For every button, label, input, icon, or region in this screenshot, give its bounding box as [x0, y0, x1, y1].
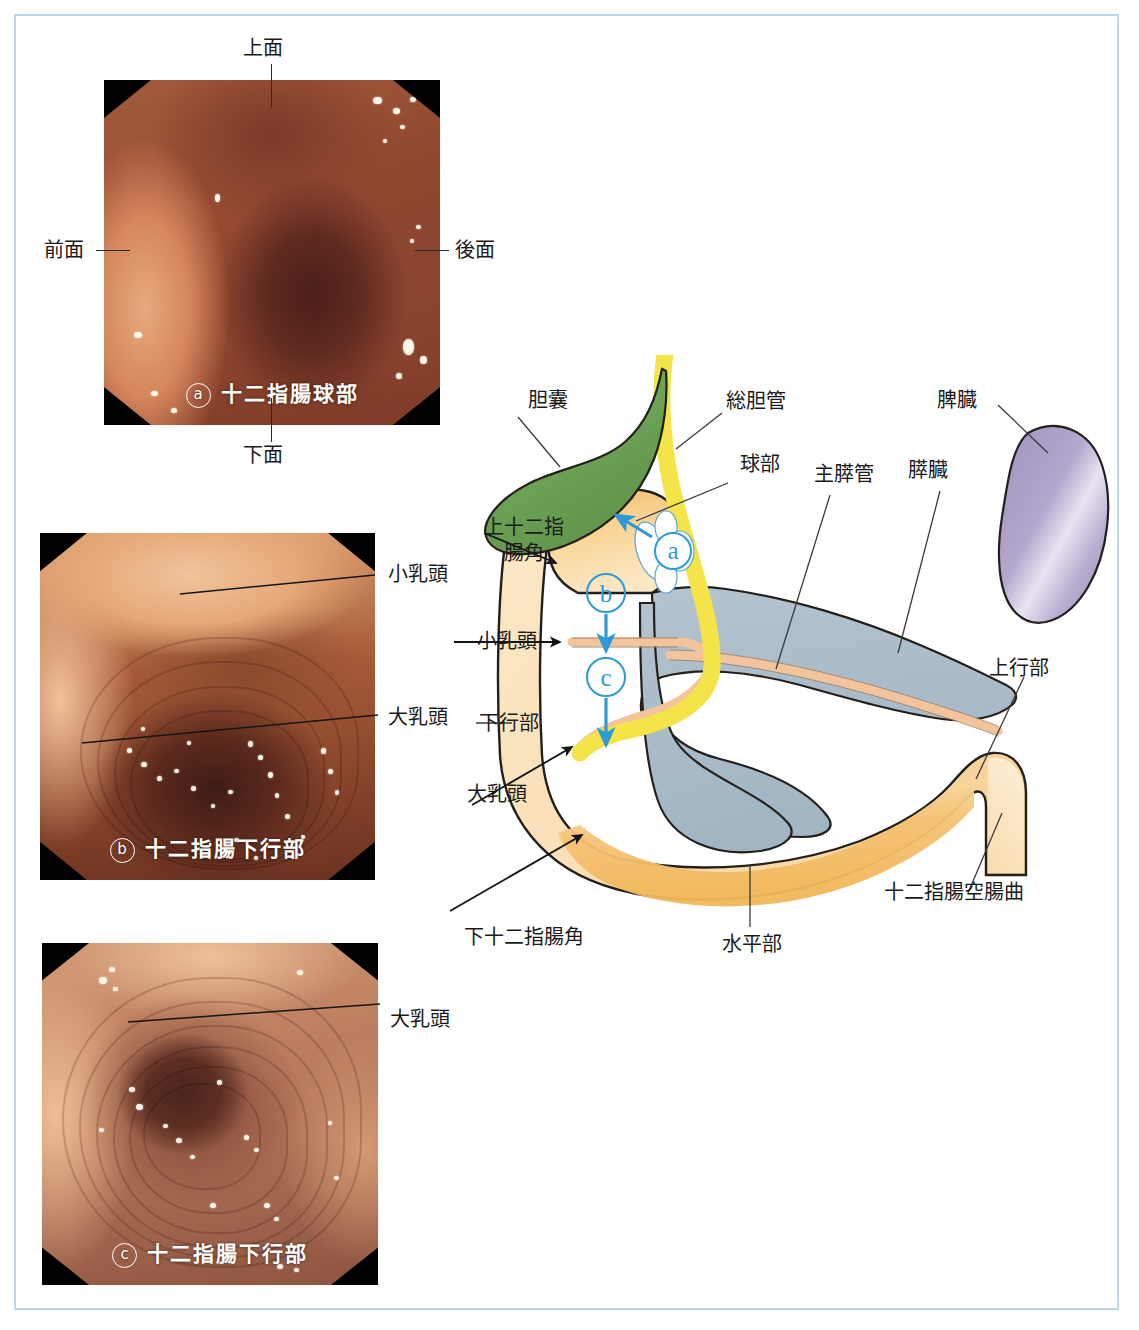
mucosal-folds-c	[42, 943, 378, 1285]
leader-common-bile-duct	[676, 413, 722, 449]
leader-line-c-major-papilla	[128, 1000, 383, 1030]
label-pancreas: 膵臓	[908, 458, 948, 484]
endoscopy-image-c: c十二指腸下行部	[42, 943, 378, 1285]
label-major-papilla-diagram: 大乳頭	[467, 782, 527, 808]
leader-line-a-left	[96, 250, 130, 251]
label-horizontal-part: 水平部	[722, 932, 782, 958]
spleen-shape	[999, 426, 1108, 623]
label-a-left: 前面	[44, 238, 84, 264]
label-spleen: 脾臓	[937, 388, 977, 414]
leader-gallbladder	[518, 417, 560, 467]
label-c-major-papilla: 大乳頭	[390, 1007, 450, 1033]
label-duodenojejunal-flexure: 十二指腸空腸曲	[884, 880, 1024, 906]
textbook-figure-page: a十二指腸球部 上面 前面 後面 下面	[0, 0, 1139, 1330]
leader-pancreas	[898, 491, 940, 653]
leader-line-a-top	[271, 64, 272, 108]
duodenum-ascending-shading	[988, 758, 1024, 873]
label-a-bottom: 下面	[243, 443, 283, 469]
view-marker-c-letter: c	[600, 664, 611, 691]
view-marker-b-letter: b	[600, 580, 613, 607]
label-minor-papilla-diagram: 小乳頭	[477, 629, 537, 655]
label-a-right: 後面	[455, 238, 495, 264]
label-superior-duodenal-flexure: 上十二指 腸角	[470, 515, 578, 566]
leader-line-a-right	[415, 250, 449, 251]
plate-mark-a: a	[186, 383, 211, 408]
leader-line-a-bottom	[271, 398, 272, 442]
label-main-pancreatic-duct: 主膵管	[814, 462, 874, 488]
plate-caption-text-b: 十二指腸下行部	[145, 837, 306, 861]
endoscopy-caption-c: c十二指腸下行部	[42, 1237, 378, 1268]
view-marker-a-letter: a	[667, 537, 678, 564]
endoscopy-field-a	[104, 80, 440, 425]
endoscopy-caption-b: b十二指腸下行部	[40, 832, 375, 863]
plate-caption-text-a: 十二指腸球部	[221, 382, 359, 406]
label-bulb: 球部	[740, 452, 780, 478]
label-ascending-part: 上行部	[989, 656, 1049, 682]
endoscopy-image-a: a十二指腸球部	[104, 80, 440, 425]
leader-line-b-minor-papilla	[180, 570, 380, 600]
endoscopy-caption-a: a十二指腸球部	[104, 377, 440, 408]
plate-mark-c: c	[112, 1243, 137, 1268]
plate-mark-b: b	[110, 838, 135, 863]
leader-inferior-flexure	[450, 835, 582, 911]
label-gallbladder: 胆囊	[528, 388, 568, 414]
label-inferior-duodenal-flexure: 下十二指腸角	[464, 925, 584, 951]
endoscopy-field-c	[42, 943, 378, 1285]
plate-caption-text-c: 十二指腸下行部	[147, 1242, 308, 1266]
label-superior-duodenal-flexure-line1: 上十二指	[470, 515, 578, 541]
label-a-top: 上面	[243, 36, 283, 62]
leader-line-b-major-papilla	[82, 710, 382, 750]
label-descending-part: 下行部	[479, 711, 539, 737]
label-superior-duodenal-flexure-line2: 腸角	[470, 541, 578, 567]
label-common-bile-duct: 総胆管	[726, 389, 786, 415]
